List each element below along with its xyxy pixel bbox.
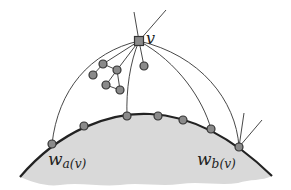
interior-node [113,66,121,74]
interior-node [116,86,124,94]
interior-node [102,81,110,89]
interior-node [99,60,107,68]
label-w-b: wb(v) [197,151,236,168]
label-w-a-main: w [48,149,63,169]
vertex-v-square [135,37,144,46]
node-w-a [48,140,56,148]
label-w-a: wa(v) [48,151,86,168]
edge-v-n2 [127,41,139,116]
boundary-node [80,122,88,130]
interior-node [140,62,148,70]
boundary-node [123,112,131,120]
label-w-b-sub: b(v) [212,157,236,171]
diagram-canvas: v wa(v) wb(v) [0,0,291,190]
interior-node [89,71,97,79]
label-w-b-main: w [197,149,212,169]
boundary-node [207,125,215,133]
boundary-node [154,112,162,120]
boundary-node [179,116,187,124]
label-w-a-sub: a(v) [63,157,87,171]
node-w-b [235,143,243,151]
label-v: v [146,31,155,47]
